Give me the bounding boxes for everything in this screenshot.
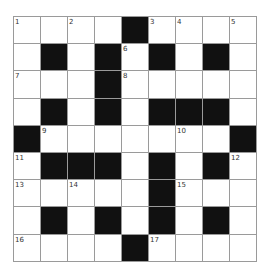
grid-cell[interactable]: 13 [14, 180, 41, 207]
grid-cell[interactable] [68, 99, 95, 126]
grid-cell[interactable] [230, 44, 257, 71]
grid-cell[interactable] [203, 126, 230, 153]
black-cell [149, 207, 176, 234]
grid-cell[interactable] [203, 235, 230, 262]
grid-cell[interactable] [122, 180, 149, 207]
grid-cell[interactable] [176, 44, 203, 71]
grid-cell[interactable]: 12 [230, 153, 257, 180]
black-cell [95, 207, 122, 234]
black-cell [95, 153, 122, 180]
grid-cell[interactable] [176, 71, 203, 98]
grid-cell[interactable]: 2 [68, 17, 95, 44]
clue-number: 8 [123, 72, 127, 80]
grid-cell[interactable] [95, 235, 122, 262]
clue-number: 9 [42, 127, 46, 135]
grid-cell[interactable] [95, 180, 122, 207]
grid-cell[interactable] [230, 99, 257, 126]
grid-cell[interactable] [95, 17, 122, 44]
grid-cell[interactable] [68, 235, 95, 262]
grid-cell[interactable]: 11 [14, 153, 41, 180]
black-cell [122, 235, 149, 262]
grid-cell[interactable] [14, 207, 41, 234]
black-cell [41, 207, 68, 234]
grid-cell[interactable]: 6 [122, 44, 149, 71]
clue-number: 2 [69, 18, 73, 26]
clue-number: 3 [150, 18, 154, 26]
grid-cell[interactable]: 1 [14, 17, 41, 44]
black-cell [230, 126, 257, 153]
grid-cell[interactable]: 7 [14, 71, 41, 98]
black-cell [149, 153, 176, 180]
black-cell [95, 71, 122, 98]
clue-number: 10 [177, 127, 186, 135]
grid-cell[interactable] [68, 126, 95, 153]
grid-cell[interactable] [149, 71, 176, 98]
grid-cell[interactable]: 16 [14, 235, 41, 262]
clue-number: 13 [15, 181, 24, 189]
grid-cell[interactable]: 17 [149, 235, 176, 262]
clue-number: 14 [69, 181, 78, 189]
clue-number: 11 [15, 154, 24, 162]
grid-cell[interactable]: 4 [176, 17, 203, 44]
grid-cell[interactable] [14, 44, 41, 71]
grid-cell[interactable] [14, 99, 41, 126]
grid-cell[interactable] [203, 17, 230, 44]
grid-cell[interactable]: 8 [122, 71, 149, 98]
clue-number: 6 [123, 45, 127, 53]
crossword-grid: 1234567891011121314151617 [13, 16, 257, 262]
black-cell [203, 99, 230, 126]
black-cell [149, 44, 176, 71]
black-cell [14, 126, 41, 153]
grid-cell[interactable]: 9 [41, 126, 68, 153]
clue-number: 1 [15, 18, 19, 26]
clue-number: 17 [150, 236, 159, 244]
black-cell [203, 44, 230, 71]
grid-cell[interactable] [41, 180, 68, 207]
black-cell [95, 44, 122, 71]
grid-cell[interactable] [176, 235, 203, 262]
black-cell [149, 180, 176, 207]
black-cell [41, 153, 68, 180]
clue-number: 4 [177, 18, 181, 26]
clue-number: 16 [15, 236, 24, 244]
clue-number: 12 [231, 154, 240, 162]
grid-cell[interactable] [203, 71, 230, 98]
clue-number: 5 [231, 18, 235, 26]
grid-cell[interactable] [230, 207, 257, 234]
clue-number: 15 [177, 181, 186, 189]
grid-cell[interactable]: 15 [176, 180, 203, 207]
grid-cell[interactable] [41, 17, 68, 44]
grid-cell[interactable] [68, 44, 95, 71]
grid-cell[interactable]: 10 [176, 126, 203, 153]
black-cell [41, 99, 68, 126]
black-cell [203, 153, 230, 180]
grid-cell[interactable] [122, 126, 149, 153]
black-cell [41, 44, 68, 71]
clue-number: 7 [15, 72, 19, 80]
grid-cell[interactable] [176, 153, 203, 180]
black-cell [68, 153, 95, 180]
black-cell [149, 99, 176, 126]
grid-cell[interactable] [68, 207, 95, 234]
grid-cell[interactable] [230, 235, 257, 262]
black-cell [95, 99, 122, 126]
grid-cell[interactable] [176, 207, 203, 234]
black-cell [176, 99, 203, 126]
black-cell [122, 17, 149, 44]
grid-cell[interactable] [230, 180, 257, 207]
grid-cell[interactable] [203, 180, 230, 207]
grid-cell[interactable]: 3 [149, 17, 176, 44]
grid-cell[interactable] [122, 99, 149, 126]
grid-cell[interactable] [41, 235, 68, 262]
grid-cell[interactable]: 5 [230, 17, 257, 44]
grid-cell[interactable] [68, 71, 95, 98]
grid-cell[interactable] [95, 126, 122, 153]
grid-cell[interactable]: 14 [68, 180, 95, 207]
black-cell [203, 207, 230, 234]
grid-cell[interactable] [122, 207, 149, 234]
grid-cell[interactable] [149, 126, 176, 153]
grid-cell[interactable] [41, 71, 68, 98]
grid-cell[interactable] [122, 153, 149, 180]
grid-cell[interactable] [230, 71, 257, 98]
